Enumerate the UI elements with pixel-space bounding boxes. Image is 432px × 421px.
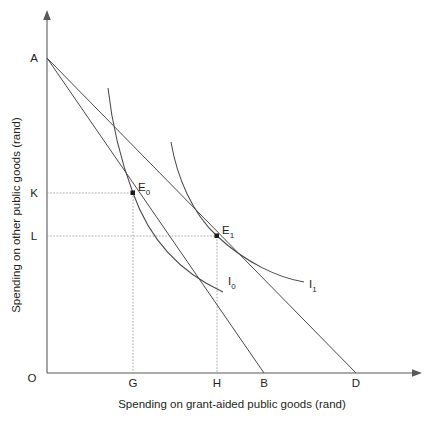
axes-group xyxy=(43,10,422,377)
x-tick-label-b: B xyxy=(260,377,268,389)
x-tick-label-h: H xyxy=(213,377,221,389)
indifference-curve-i1 xyxy=(171,142,304,282)
budget-constraint-indifference-curve-chart: I0 I1 E0 E1 A O K L G H B D Spending on … xyxy=(0,0,432,421)
y-tick-label-l: L xyxy=(31,230,38,242)
curve-label-i0: I0 xyxy=(228,275,236,291)
budget-line-ab xyxy=(47,58,264,373)
axis-point-label-a: A xyxy=(30,52,38,64)
x-tick-label-d: D xyxy=(352,377,360,389)
equilibrium-point-e1-marker xyxy=(215,234,220,239)
guide-lines-group xyxy=(47,193,217,373)
equilibrium-label-e1: E1 xyxy=(222,224,235,240)
equilibrium-point-e0-marker xyxy=(131,191,136,196)
axis-origin-label-o: O xyxy=(28,372,37,384)
y-axis-arrow-icon xyxy=(43,10,51,20)
curve-label-i1: I1 xyxy=(309,278,317,294)
y-axis-title: Spending on other public goods (rand) xyxy=(10,117,22,313)
equilibrium-label-e0: E0 xyxy=(138,181,151,197)
x-tick-label-g: G xyxy=(129,377,138,389)
y-tick-label-k: K xyxy=(30,187,38,199)
x-axis-title: Spending on grant-aided public goods (ra… xyxy=(118,398,346,410)
axis-titles-group: Spending on grant-aided public goods (ra… xyxy=(10,117,346,410)
budget-line-ad xyxy=(47,58,356,373)
equilibrium-points-group: E0 E1 xyxy=(131,181,235,240)
budget-lines-group xyxy=(47,58,356,373)
x-axis-arrow-icon xyxy=(412,369,422,377)
chart-canvas: I0 I1 E0 E1 A O K L G H B D Spending on … xyxy=(0,0,432,421)
indifference-curve-i0 xyxy=(108,88,223,292)
curve-label-group: I0 I1 xyxy=(228,275,317,294)
